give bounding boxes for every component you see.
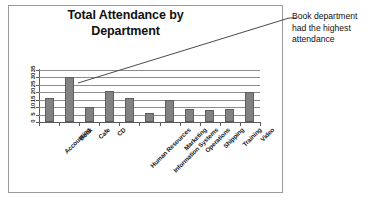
bar-slot xyxy=(99,70,119,122)
plot-area xyxy=(39,70,260,122)
x-label-cafe: Cafe xyxy=(97,126,111,140)
annotation-line-2: had the highest xyxy=(292,23,370,35)
bar-training xyxy=(225,109,234,122)
bar-slot xyxy=(139,70,159,122)
bar-cafe xyxy=(85,107,94,122)
bar-slot xyxy=(59,70,79,122)
bar-book xyxy=(65,77,74,122)
chart-title: Total Attendance by Department xyxy=(18,7,233,39)
annotation-callout: Book department had the highest attendan… xyxy=(292,11,370,46)
annotation-line-3: attendance xyxy=(292,34,370,46)
chart-title-line-2: Department xyxy=(18,23,233,39)
bar-slot xyxy=(160,70,180,122)
annotation-line-1: Book department xyxy=(292,11,370,23)
bar-slot xyxy=(39,70,59,122)
bar-slot xyxy=(180,70,200,122)
bar-series xyxy=(39,70,260,122)
bar-information-systems xyxy=(145,113,154,122)
bar-slot xyxy=(240,70,260,122)
x-axis-category-labels: AccountingBookCafeCDHuman ResourcesInfor… xyxy=(39,126,269,188)
bar-cd xyxy=(105,91,114,122)
bar-accounting xyxy=(45,98,54,122)
chart-title-line-1: Total Attendance by xyxy=(18,7,233,23)
x-label-book: Book xyxy=(78,126,94,142)
bar-slot xyxy=(220,70,240,122)
bar-slot xyxy=(79,70,99,122)
bar-shipping xyxy=(205,110,214,122)
bar-slot xyxy=(119,70,139,122)
x-label-cd: CD xyxy=(116,126,127,137)
bar-human-resources xyxy=(125,98,134,122)
bar-marketing xyxy=(165,100,174,122)
bar-video xyxy=(245,92,254,122)
bar-slot xyxy=(200,70,220,122)
bar-operations xyxy=(185,109,194,122)
y-tick-label-35: 35 xyxy=(28,63,38,76)
